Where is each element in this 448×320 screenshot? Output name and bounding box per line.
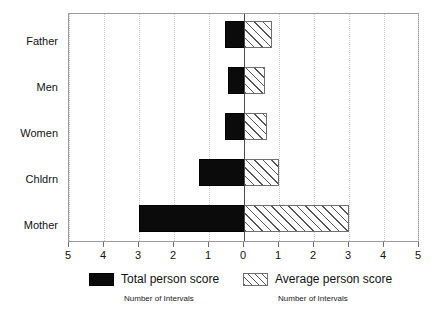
x-tick-mark-10: [418, 242, 419, 247]
y-axis-label-father: Father: [26, 35, 58, 47]
bar-average-person-score-mother: [244, 205, 349, 232]
x-axis: 5 4 3 2 1 0 1 2 3 4 5: [68, 242, 419, 272]
x-tick-label-8: 3: [333, 249, 363, 262]
y-axis-label-women: Women: [20, 127, 58, 139]
x-tick-label-9: 4: [368, 249, 398, 262]
x-tick-label-0: 5: [53, 249, 83, 262]
x-tick-mark-4: [208, 242, 209, 247]
x-tick-label-3: 2: [158, 249, 188, 262]
plot-area: [68, 13, 419, 242]
diverging-bar-chart: Father Men Women Chldrn Mother: [0, 0, 448, 320]
legend-swatch-hatched-icon: [243, 273, 268, 286]
x-tick-mark-1: [103, 242, 104, 247]
gridline-right-5: [418, 14, 420, 241]
legend-swatch-solid-icon: [89, 273, 114, 286]
legend-entry-average-person-score: Average person score: [243, 272, 392, 286]
legend-label-total-person-score: Total person score: [121, 272, 219, 286]
y-axis-category-labels: Father Men Women Chldrn Mother: [0, 13, 68, 242]
x-tick-mark-6: [278, 242, 279, 247]
bar-average-person-score-men: [244, 67, 265, 94]
bar-average-person-score-women: [244, 113, 267, 140]
x-tick-label-4: 1: [193, 249, 223, 262]
bar-total-person-score-mother: [139, 205, 244, 232]
y-axis-label-chldrn: Chldrn: [26, 173, 58, 185]
x-tick-label-10: 5: [403, 249, 433, 262]
bar-total-person-score-chldrn: [199, 159, 245, 186]
chart-legend: Total person score Average person score …: [0, 272, 448, 320]
legend-entry-total-person-score: Total person score: [89, 272, 219, 286]
bar-total-person-score-father: [225, 21, 244, 48]
x-tick-label-2: 3: [123, 249, 153, 262]
legend-label-average-person-score: Average person score: [275, 272, 392, 286]
x-tick-mark-2: [138, 242, 139, 247]
bar-total-person-score-men: [228, 67, 244, 94]
x-tick-mark-3: [173, 242, 174, 247]
x-tick-label-6: 1: [263, 249, 293, 262]
bar-average-person-score-father: [244, 21, 272, 48]
gridline-zero-axis: [244, 14, 246, 241]
x-tick-label-5: 0: [228, 249, 258, 262]
y-axis-label-men: Men: [37, 81, 58, 93]
x-tick-mark-8: [348, 242, 349, 247]
x-axis-note-right: Number of Intervals: [278, 294, 348, 304]
bar-average-person-score-chldrn: [244, 159, 279, 186]
x-tick-mark-0: [68, 242, 69, 247]
bar-total-person-score-women: [225, 113, 244, 140]
x-tick-mark-7: [313, 242, 314, 247]
x-tick-mark-9: [383, 242, 384, 247]
y-axis-label-mother: Mother: [24, 219, 58, 231]
x-tick-label-1: 4: [88, 249, 118, 262]
x-tick-mark-5: [243, 242, 244, 247]
x-tick-label-7: 2: [298, 249, 328, 262]
x-axis-note-left: Number of Intervals: [124, 294, 194, 304]
